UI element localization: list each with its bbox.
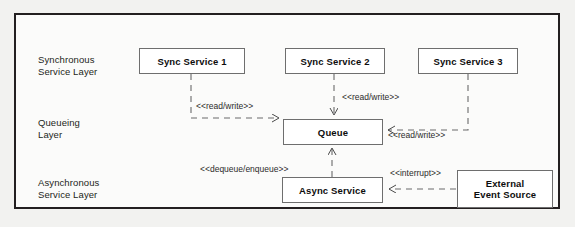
connector-label-sync2-queue: <<read/write>> — [342, 92, 399, 102]
node-sync-service-3[interactable]: Sync Service 3 — [418, 48, 518, 74]
node-sync-service-1[interactable]: Sync Service 1 — [139, 48, 245, 74]
connector-label-async-queue: <<dequeue/enqueue>> — [200, 164, 288, 174]
layer-label-queueing: Queueing Layer — [38, 117, 80, 140]
diagram-canvas: Synchronous Service Layer Queueing Layer… — [0, 0, 575, 227]
connector-label-sync3-queue: <<read/write>> — [388, 130, 445, 140]
connector-label-sync1-queue: <<read/write>> — [196, 101, 253, 111]
layer-label-synchronous: Synchronous Service Layer — [38, 54, 97, 77]
node-external-event-source[interactable]: External Event Source — [457, 170, 553, 208]
connector-label-external-async: <<interrupt>> — [390, 168, 441, 178]
node-sync-service-2[interactable]: Sync Service 2 — [285, 48, 385, 74]
layer-label-asynchronous: Asynchronous Service Layer — [38, 177, 99, 200]
node-queue[interactable]: Queue — [283, 119, 383, 145]
node-async-service[interactable]: Async Service — [282, 177, 383, 203]
